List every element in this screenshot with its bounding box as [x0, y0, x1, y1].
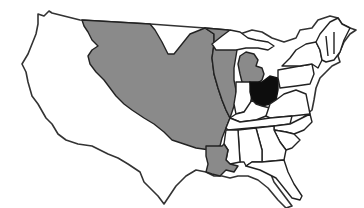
us-map-svg [0, 0, 364, 208]
us-map: United States outline map [0, 0, 364, 208]
